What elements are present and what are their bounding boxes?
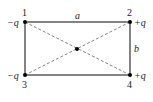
charge-dot-4 xyxy=(128,73,132,77)
charge-label-2: +q xyxy=(134,17,146,28)
side-label-a: a xyxy=(75,10,80,21)
charge-label-1: −q xyxy=(7,17,19,28)
charge-dot-2 xyxy=(128,20,132,24)
charge-diagram: 1 2 3 4 −q +q −q +q a b xyxy=(0,0,153,102)
charge-label-4: +q xyxy=(134,70,146,81)
corner-index-3: 3 xyxy=(22,79,27,90)
corner-index-2: 2 xyxy=(127,7,132,18)
charge-dot-1 xyxy=(23,20,27,24)
corner-index-4: 4 xyxy=(127,79,132,90)
charge-dot-3 xyxy=(23,73,27,77)
center-dot xyxy=(75,47,79,51)
side-label-b: b xyxy=(134,43,139,54)
corner-index-1: 1 xyxy=(22,7,27,18)
charge-label-3: −q xyxy=(7,70,19,81)
